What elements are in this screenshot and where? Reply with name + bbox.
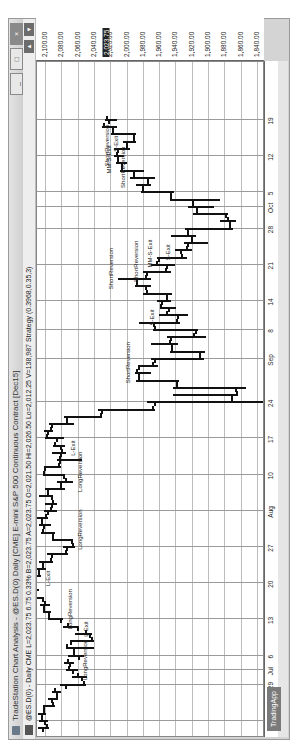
open-tick — [170, 337, 172, 341]
price-gridline — [45, 62, 46, 736]
open-tick — [126, 142, 128, 146]
open-tick — [192, 200, 194, 204]
date-tick-label: Jul — [267, 667, 274, 675]
symbol-info-text: @ES.D(0) - Daily CME L=2,023.75 6.75 0.3… — [25, 267, 32, 721]
price-tick-label: 1,940.00 — [171, 32, 178, 57]
open-tick — [66, 547, 68, 551]
strategy-signal-label: S-Exit — [113, 136, 119, 152]
price-gridline — [143, 62, 144, 736]
open-tick — [51, 699, 53, 703]
date-axis[interactable]: 2229Jul6132027Aug101724Sep8142128Oct5121… — [264, 61, 279, 737]
symbol-icon — [25, 725, 33, 735]
price-tick-label: 2,000.00 — [122, 32, 129, 57]
price-gridline — [175, 62, 176, 736]
open-tick — [78, 656, 80, 660]
open-tick — [60, 446, 62, 450]
open-tick — [60, 482, 62, 486]
open-tick — [51, 424, 53, 428]
date-tick-label: 10 — [267, 472, 274, 479]
price-gridline — [224, 62, 225, 736]
price-chart-plot[interactable]: LongReversionL-ExitLongReversionL-ExitLo… — [36, 61, 264, 737]
open-tick — [42, 562, 44, 566]
open-tick — [235, 388, 237, 392]
symbol-info-bar: @ES.D(0) - Daily CME L=2,023.75 6.75 0.3… — [23, 19, 36, 739]
scroll-down-button[interactable]: ▼ — [24, 23, 34, 36]
date-tick-label: 20 — [267, 581, 274, 588]
date-gridline — [37, 437, 263, 438]
open-tick — [177, 315, 179, 319]
price-tick-label: 1,960.00 — [155, 32, 162, 57]
ohlc-bar — [49, 423, 73, 425]
date-tick-label: 28 — [267, 226, 274, 233]
date-tick-label: 24 — [267, 400, 274, 407]
open-tick — [231, 395, 233, 399]
strategy-signal-label: ShortReversion — [120, 147, 126, 188]
ohlc-bar — [138, 365, 158, 367]
open-tick — [199, 352, 201, 356]
price-gridline — [241, 62, 242, 736]
open-tick — [112, 127, 114, 131]
strategy-signal-label: L-Exit — [45, 571, 51, 586]
close-button[interactable]: × — [10, 23, 23, 45]
open-tick — [43, 525, 45, 529]
strategy-signal-label: S-Exit — [165, 244, 171, 260]
strategy-signal-label: LongReversion — [67, 589, 73, 629]
strategy-signal-label: L-Exit — [83, 621, 89, 636]
price-gridline — [94, 62, 95, 736]
price-axis[interactable]: 2,100.002,080.002,060.002,040.002,020.00… — [36, 18, 264, 61]
close-tick — [77, 673, 79, 677]
open-tick — [41, 518, 43, 522]
open-tick — [70, 641, 72, 645]
date-gridline — [37, 582, 263, 583]
open-tick — [47, 489, 49, 493]
close-tick — [91, 637, 93, 641]
ohlc-bar — [141, 191, 174, 193]
date-tick-label: Sep — [267, 354, 274, 366]
title-bar[interactable]: TradeStation Chart Analysis - @ES.D(0) D… — [9, 19, 23, 739]
date-tick-label: 21 — [267, 262, 274, 269]
open-tick — [225, 214, 227, 218]
open-tick — [44, 467, 46, 471]
date-tick-label: 13 — [267, 617, 274, 624]
scroll-up-button[interactable]: ▲ — [24, 40, 34, 53]
ohlc-bar — [151, 358, 204, 360]
open-tick — [41, 714, 43, 718]
date-gridline — [37, 510, 263, 511]
open-tick — [47, 431, 49, 435]
window-title: TradeStation Chart Analysis - @ES.D(0) D… — [11, 371, 20, 721]
app-icon — [12, 726, 20, 735]
open-tick — [60, 453, 62, 457]
open-tick — [43, 605, 45, 609]
date-gridline — [37, 155, 263, 156]
strategy-signal-label: LongReversion — [77, 452, 83, 492]
open-tick — [154, 402, 156, 406]
open-tick — [77, 627, 79, 631]
open-tick — [133, 171, 135, 175]
open-tick — [229, 221, 231, 225]
chart-window: TradeStation Chart Analysis - @ES.D(0) D… — [8, 18, 290, 740]
strategy-signal-label: MM-S-Exit — [106, 145, 112, 173]
open-tick — [42, 598, 44, 602]
trading-app-tab[interactable]: TradingApp — [267, 687, 281, 731]
open-tick — [168, 308, 170, 312]
date-tick-label: 17 — [267, 436, 274, 443]
date-gridline — [37, 474, 263, 475]
date-gridline — [37, 206, 263, 207]
open-tick — [51, 554, 53, 558]
restore-button[interactable]: □ — [10, 48, 23, 70]
date-gridline — [37, 358, 263, 359]
date-tick-label: Oct — [267, 203, 274, 213]
price-tick-label: 2,060.00 — [73, 32, 80, 57]
current-price-label: 2,023.75 — [103, 28, 110, 57]
open-tick — [56, 692, 58, 696]
minimize-button[interactable]: _ — [10, 73, 23, 95]
date-tick-label: Aug — [267, 506, 274, 518]
open-tick — [71, 540, 73, 544]
close-tick — [67, 659, 69, 663]
open-tick — [176, 381, 178, 385]
open-tick — [47, 511, 49, 515]
ohlc-bar — [136, 380, 180, 382]
horizontal-scrollbar[interactable] — [278, 61, 288, 737]
ohlc-bar — [139, 322, 181, 324]
open-tick — [195, 330, 197, 334]
